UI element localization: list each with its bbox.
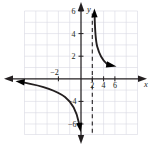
graph-figure: y x −2 2 4 6 6 4 2 −4 −6: [0, 0, 159, 146]
y-axis-label: y: [86, 4, 91, 14]
x-axis-arrow-left: [4, 76, 13, 83]
coordinate-plane: y x −2 2 4 6 6 4 2 −4 −6: [0, 0, 159, 146]
y-axis-arrow-up: [78, 2, 84, 11]
curve-right-branch: [91, 9, 116, 68]
axis-lines: [9, 7, 141, 138]
x-tick-label-neg2: −2: [50, 68, 59, 77]
y-tick-label-6: 6: [72, 7, 76, 16]
x-tick-label-6: 6: [113, 81, 117, 90]
y-tick-label-2: 2: [72, 52, 76, 61]
y-tick-label-neg6: −6: [68, 120, 77, 129]
x-tick-label-4: 4: [102, 81, 106, 90]
curve-arrow-left: [16, 79, 26, 85]
y-axis-arrow-down: [78, 135, 84, 144]
x-axis-label: x: [143, 79, 148, 89]
y-tick-label-4: 4: [72, 30, 76, 39]
